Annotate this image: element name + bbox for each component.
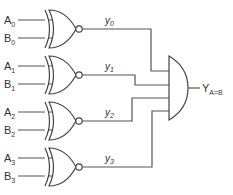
wire-y1 [82, 75, 169, 85]
xor-body-icon [49, 56, 76, 94]
and-gate: YA=B [169, 56, 223, 120]
xnor-gate-0: A0 B0 [4, 10, 82, 48]
xnor-extra-arc-icon [45, 148, 50, 186]
xor-body-icon [49, 10, 76, 48]
input-label-a0: A0 [4, 14, 15, 28]
input-label-b0: B0 [4, 32, 15, 46]
final-output-label: YA=B [202, 82, 223, 96]
xnor-extra-arc-icon [45, 102, 50, 140]
inversion-bubble-icon [76, 164, 82, 170]
xnor-extra-arc-icon [45, 10, 50, 48]
xnor-gate-3: A3 B3 [4, 148, 82, 186]
xnor-gate-1: A1 B1 [4, 56, 82, 94]
xor-body-icon [49, 102, 76, 140]
comparator-diagram: A0 B0 A1 B1 A2 B2 A3 B3 [0, 0, 233, 195]
inversion-bubble-icon [76, 118, 82, 124]
wire-y2 [82, 98, 169, 121]
intermediate-wires: y0 y1 y2 y3 [82, 15, 169, 167]
xnor-gate-2: A2 B2 [4, 102, 82, 140]
input-label-b3: B3 [4, 170, 15, 184]
inversion-bubble-icon [76, 72, 82, 78]
xnor-extra-arc-icon [45, 56, 50, 94]
output-label-y0: y0 [104, 15, 114, 27]
wire-y0 [82, 29, 169, 71]
output-label-y1: y1 [104, 61, 114, 73]
wire-y3 [82, 111, 169, 167]
and-gate-body-icon [169, 56, 188, 120]
input-label-a1: A1 [4, 60, 15, 74]
output-label-y2: y2 [104, 107, 114, 119]
input-label-a2: A2 [4, 106, 15, 120]
xor-body-icon [49, 148, 76, 186]
inversion-bubble-icon [76, 26, 82, 32]
output-label-y3: y3 [104, 153, 114, 165]
input-label-b2: B2 [4, 124, 15, 138]
input-label-a3: A3 [4, 152, 15, 166]
input-label-b1: B1 [4, 78, 15, 92]
